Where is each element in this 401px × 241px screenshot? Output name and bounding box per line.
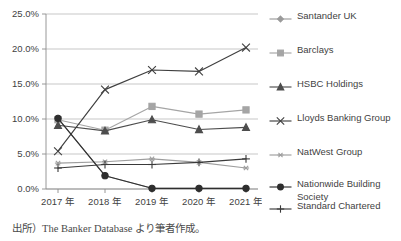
data-point-marker: [196, 111, 202, 117]
data-point-marker: [149, 185, 155, 191]
chart-legend: Santander UKBarclaysHSBC HoldingsLloyds …: [268, 5, 401, 210]
data-point-marker: [55, 115, 61, 121]
data-point-marker: [54, 164, 62, 172]
data-point-marker: [278, 153, 284, 157]
series-standard-chartered: [54, 155, 250, 172]
legend-item[interactable]: Lloyds Banking Group: [268, 112, 401, 125]
data-point-marker: [242, 155, 250, 163]
x-axis-tick-label: 2017 年: [41, 196, 75, 207]
y-axis-tick-label: 5.0%: [17, 148, 39, 159]
series-nationwide-building-society: [55, 115, 249, 191]
data-point-marker: [195, 159, 203, 167]
figure: 25.0%20.0%15.0%10.0%5.0%0.0%2017 年2018 年…: [0, 0, 401, 241]
legend-marker-asterisk-icon: [268, 147, 293, 159]
legend-item-label: Barclays: [297, 44, 333, 57]
data-point-marker: [278, 184, 284, 190]
data-point-marker: [278, 16, 284, 22]
legend-item[interactable]: Santander UK: [268, 10, 401, 23]
series-line: [58, 48, 246, 152]
legend-item-label: HSBC Holdings: [297, 78, 363, 91]
legend-item-label: Standard Chartered: [297, 200, 380, 213]
data-point-marker: [196, 185, 202, 191]
legend-item-label: NatWest Group: [297, 146, 362, 159]
data-point-marker: [243, 166, 249, 170]
legend-marker-plus-icon: [268, 201, 293, 213]
y-axis-tick-label: 15.0%: [12, 78, 39, 89]
data-point-marker: [149, 103, 155, 109]
legend-item-label: Santander UK: [297, 10, 357, 23]
legend-marker-circle-icon: [268, 179, 293, 191]
legend-marker-triangle-icon: [268, 79, 293, 91]
data-point-marker: [101, 86, 109, 94]
data-point-marker: [149, 157, 155, 161]
legend-marker-diamond-icon: [268, 11, 293, 23]
data-point-marker: [243, 185, 249, 191]
legend-item[interactable]: HSBC Holdings: [268, 78, 401, 91]
source-caption: 出所）The Banker Database より筆者作成。: [12, 220, 205, 235]
data-point-marker: [243, 107, 249, 113]
data-point-marker: [278, 50, 284, 56]
data-point-marker: [148, 161, 156, 169]
x-axis-tick-label: 2018 年: [88, 196, 122, 207]
x-axis-tick-label: 2021 年: [229, 196, 262, 207]
legend-marker-cross-x-icon: [268, 113, 293, 125]
y-axis-tick-label: 25.0%: [12, 8, 39, 19]
series-santander-uk: [55, 115, 249, 191]
data-point-marker: [102, 173, 108, 179]
legend-item[interactable]: Barclays: [268, 44, 401, 57]
data-point-marker: [242, 44, 250, 52]
y-axis-tick-label: 0.0%: [17, 183, 39, 194]
legend-item-label: Lloyds Banking Group: [297, 112, 390, 125]
series-lloyds-banking-group: [54, 44, 250, 155]
chart-plot-area: 25.0%20.0%15.0%10.0%5.0%0.0%2017 年2018 年…: [0, 0, 262, 212]
x-axis-tick-label: 2020 年: [182, 196, 216, 207]
legend-marker-square-icon: [268, 45, 293, 57]
y-axis-tick-label: 10.0%: [12, 113, 39, 124]
line-chart: 25.0%20.0%15.0%10.0%5.0%0.0%2017 年2018 年…: [0, 0, 262, 212]
data-point-marker: [277, 205, 284, 212]
y-axis-tick-label: 20.0%: [12, 43, 39, 54]
x-axis-tick-label: 2019 年: [135, 196, 169, 207]
legend-item[interactable]: NatWest Group: [268, 146, 401, 159]
legend-item[interactable]: Standard Chartered: [268, 200, 401, 213]
